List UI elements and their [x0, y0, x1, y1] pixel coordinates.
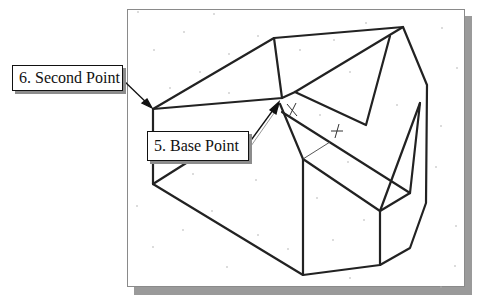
construction-line: [303, 142, 330, 159]
cross-marker-displacement: [331, 124, 343, 138]
callout-second-point: 6. Second Point: [12, 65, 123, 91]
callout-base-point: 5. Base Point: [147, 131, 249, 161]
callout-base-point-label: 5. Base Point: [154, 137, 239, 155]
callout-second-point-label: 6. Second Point: [19, 69, 120, 87]
